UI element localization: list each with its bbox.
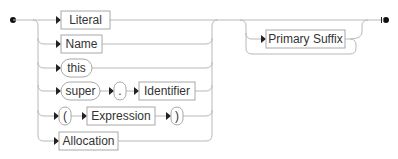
label: Allocation [62, 134, 114, 148]
label: super [65, 84, 95, 98]
merge-super [195, 85, 212, 91]
node-literal[interactable]: Literal [56, 11, 110, 29]
node-dot[interactable]: . [109, 82, 126, 100]
node-lparen[interactable]: ( [54, 107, 71, 125]
arrow-icon [261, 35, 266, 43]
arrow-icon [56, 64, 61, 72]
label: . [118, 84, 121, 98]
arrow-icon [82, 112, 87, 120]
node-allocation[interactable]: Allocation [54, 132, 118, 150]
arrow-icon [109, 87, 114, 95]
left-branch-vertical [33, 20, 58, 141]
railroad-diagram: Literal Name this super . Identifier ( [0, 0, 398, 159]
node-name[interactable]: Name [56, 35, 102, 53]
label: Name [65, 37, 97, 51]
merge-name [102, 38, 212, 44]
loop-exit [350, 20, 368, 39]
label: ) [175, 109, 179, 123]
node-this[interactable]: this [56, 59, 92, 77]
label: this [67, 61, 86, 75]
label: Primary Suffix [268, 32, 342, 46]
merge-this [92, 62, 212, 68]
label: Expression [91, 109, 150, 123]
merge-paren [183, 110, 212, 116]
label: Literal [69, 13, 102, 27]
node-rparen[interactable]: ) [166, 107, 183, 125]
arrow-icon [54, 137, 59, 145]
arrow-icon [134, 87, 139, 95]
node-super[interactable]: super [56, 82, 100, 100]
arrow-icon [56, 40, 61, 48]
arrow-icon [56, 16, 61, 24]
arrow-icon [56, 87, 61, 95]
arrow-icon [166, 112, 171, 120]
arrow-icon [54, 112, 59, 120]
end-bar [381, 17, 382, 23]
label: Identifier [144, 84, 190, 98]
label: ( [63, 109, 67, 123]
node-expression[interactable]: Expression [82, 107, 155, 125]
node-primary-suffix[interactable]: Primary Suffix [261, 30, 345, 48]
node-identifier[interactable]: Identifier [134, 82, 195, 100]
